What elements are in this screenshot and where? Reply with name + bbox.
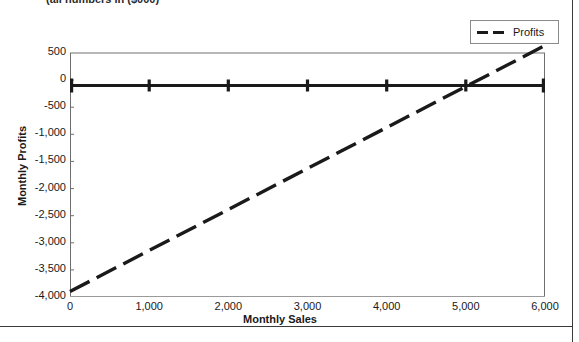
y-tick-label: -3,500 (35, 262, 66, 274)
y-tick-label: 0 (60, 72, 66, 84)
y-tick-label: -1,000 (35, 126, 66, 138)
chart-caption-clip: (all numbers in ($000) (0, 0, 579, 7)
y-tick-label: -2,500 (35, 208, 66, 220)
x-tick-label: 4,000 (362, 300, 412, 312)
x-tick-label: 3,000 (283, 300, 333, 312)
legend-item-profits: Profits (513, 26, 544, 38)
y-tick-label: -1,500 (35, 153, 66, 165)
y-tick-label: 500 (48, 45, 66, 57)
frame-border-right (572, 0, 573, 342)
chart-caption: (all numbers in ($000) (46, 0, 159, 5)
y-tick-label: -3,000 (35, 235, 66, 247)
plot-area (70, 53, 545, 297)
x-tick-label: 5,000 (441, 300, 491, 312)
y-tick-label: -2,000 (35, 181, 66, 193)
legend-dash-icon (476, 27, 510, 38)
chart-legend: Profits (470, 20, 559, 44)
x-tick-label: 1,000 (124, 300, 174, 312)
x-axis-title: Monthly Sales (0, 313, 560, 325)
y-axis-tick-labels: 500 0 -500 -1,000 -1,500 -2,000 -2,500 -… (0, 53, 66, 297)
y-tick-label: -500 (44, 99, 66, 111)
x-tick-label: 6,000 (520, 300, 570, 312)
x-tick-label: 2,000 (203, 300, 253, 312)
x-tick-label: 0 (45, 300, 95, 312)
plot-svg (70, 53, 545, 297)
frame-border-bottom (0, 326, 573, 327)
